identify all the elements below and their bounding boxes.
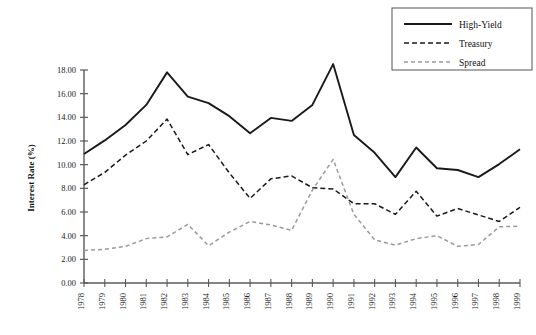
x-tick-label: 1979 <box>97 293 107 310</box>
x-tick-label: 1994 <box>408 292 418 310</box>
legend-label-treasury: Treasury <box>459 39 493 49</box>
x-tick-label: 1996 <box>450 293 460 310</box>
y-tick-label: 8.00 <box>61 183 76 193</box>
y-axis-title-text: Interest Rate (%) <box>26 144 36 211</box>
x-tick-label: 1983 <box>180 293 190 310</box>
y-tick-label: 4.00 <box>61 231 76 241</box>
y-tick-label: 16.00 <box>57 89 76 99</box>
x-tick-label: 1978 <box>76 293 86 310</box>
x-tick-label: 1982 <box>159 293 169 310</box>
x-tick-label: 1993 <box>387 293 397 310</box>
x-tick-label: 1985 <box>221 293 231 310</box>
legend-label-spread: Spread <box>459 58 486 68</box>
y-tick-label: 10.00 <box>57 160 76 170</box>
interest-rate-line-chart: Interest Rate (%) 0.002.004.006.008.0010… <box>0 0 536 335</box>
y-tick-label: 2.00 <box>61 254 76 264</box>
x-tick-label: 1986 <box>242 293 252 310</box>
chart-legend: High-YieldTreasurySpread <box>392 8 532 70</box>
x-tick-label: 1991 <box>346 293 356 310</box>
y-tick-label: 0.00 <box>61 278 76 288</box>
x-tick-label: 1997 <box>470 293 480 310</box>
chart-container: Interest Rate (%) 0.002.004.006.008.0010… <box>0 0 536 335</box>
y-tick-label: 12.00 <box>57 136 76 146</box>
x-tick-label: 1989 <box>304 293 314 310</box>
x-tick-label: 1998 <box>491 293 501 310</box>
y-tick-label: 6.00 <box>61 207 76 217</box>
x-tick-label: 1999 <box>512 293 522 310</box>
legend-label-high-yield: High-Yield <box>459 20 502 30</box>
x-tick-label: 1995 <box>429 293 439 310</box>
y-axis-title: Interest Rate (%) <box>26 144 36 211</box>
x-tick-label: 1988 <box>284 293 294 310</box>
x-tick-label: 1990 <box>325 293 335 310</box>
y-tick-label: 18.00 <box>57 65 76 75</box>
x-tick-label: 1984 <box>201 292 211 310</box>
x-tick-label: 1992 <box>367 293 377 310</box>
x-tick-label: 1987 <box>263 293 273 310</box>
x-tick-label: 1981 <box>138 293 148 310</box>
x-tick-label: 1980 <box>118 293 128 310</box>
y-tick-label: 14.00 <box>57 112 76 122</box>
